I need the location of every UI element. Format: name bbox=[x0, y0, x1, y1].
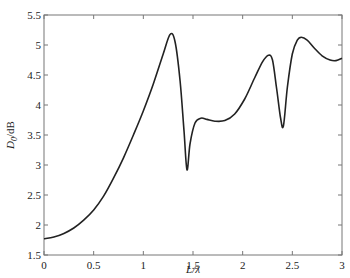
y-tick-label: 3.5 bbox=[27, 129, 41, 141]
x-tick-label: 2.5 bbox=[285, 259, 299, 271]
y-tick-label: 4.5 bbox=[27, 69, 41, 81]
x-tick-label: 1 bbox=[141, 259, 147, 271]
x-tick-label: 0 bbox=[41, 259, 47, 271]
y-tick-label: 3 bbox=[36, 159, 42, 171]
x-tick-label: 0.5 bbox=[87, 259, 101, 271]
x-tick-label: 2 bbox=[240, 259, 246, 271]
plot-frame bbox=[44, 15, 342, 255]
x-axis: 00.511.522.53 bbox=[41, 15, 345, 271]
y-tick-label: 2 bbox=[36, 219, 42, 231]
y-tick-label: 5 bbox=[36, 39, 42, 51]
x-tick-label: 3 bbox=[339, 259, 345, 271]
y-tick-label: 2.5 bbox=[27, 189, 41, 201]
line-chart: 00.511.522.53 1.522.533.544.555.5 L/λ D0… bbox=[0, 0, 350, 278]
x-axis-title: L/λ bbox=[185, 263, 200, 275]
y-axis-title: D0/dB bbox=[4, 121, 19, 150]
y-tick-label: 4 bbox=[36, 99, 42, 111]
data-line bbox=[44, 33, 342, 238]
y-tick-label: 1.5 bbox=[27, 249, 41, 261]
y-tick-label: 5.5 bbox=[27, 9, 41, 21]
